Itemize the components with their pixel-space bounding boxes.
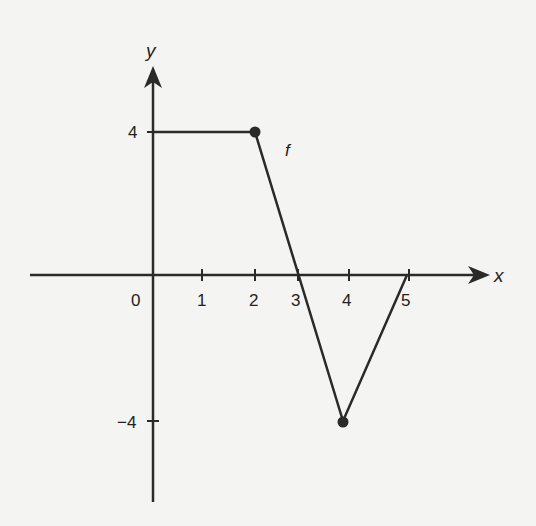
tick-label-2: 2 — [249, 291, 258, 310]
tick-label-1: 1 — [197, 291, 206, 310]
tick-label-y-neg4: −4 — [117, 413, 136, 432]
point-4-neg4 — [338, 417, 349, 428]
tick-label-4: 4 — [342, 291, 351, 310]
point-2-4 — [250, 127, 261, 138]
function-label: f — [285, 141, 292, 160]
function-f-line — [153, 132, 407, 421]
tick-label-0: 0 — [131, 291, 140, 310]
tick-label-5: 5 — [401, 291, 410, 310]
graph-of-f: y x f 0 1 2 3 4 5 4 −4 — [0, 0, 536, 526]
tick-label-3: 3 — [291, 291, 300, 310]
x-axis-label: x — [493, 265, 505, 286]
y-axis-label: y — [144, 40, 157, 61]
tick-label-y-4: 4 — [128, 123, 137, 142]
